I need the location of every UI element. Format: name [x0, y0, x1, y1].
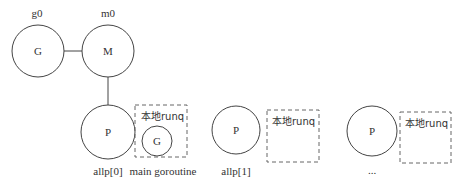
- p2-node-label: P: [369, 125, 375, 137]
- g0-label: g0: [32, 7, 43, 19]
- p1-node-label: P: [233, 124, 239, 136]
- p1-caption: allp[1]: [221, 165, 250, 177]
- runq-label-1: 本地runq: [272, 116, 315, 128]
- main-goroutine-caption: main goroutine: [130, 165, 197, 177]
- m0-node-label: M: [103, 45, 113, 57]
- diagram-canvas: [0, 0, 462, 185]
- m0-label: m0: [101, 7, 115, 19]
- p2-caption: ...: [368, 164, 376, 176]
- g0-node-label: G: [34, 45, 42, 57]
- runq-label-2: 本地runq: [405, 118, 448, 130]
- p0-caption: allp[0]: [93, 165, 122, 177]
- runq-label-0: 本地runq: [141, 111, 184, 123]
- p0-node-label: P: [105, 126, 111, 138]
- main-goroutine-node-label: G: [153, 135, 161, 147]
